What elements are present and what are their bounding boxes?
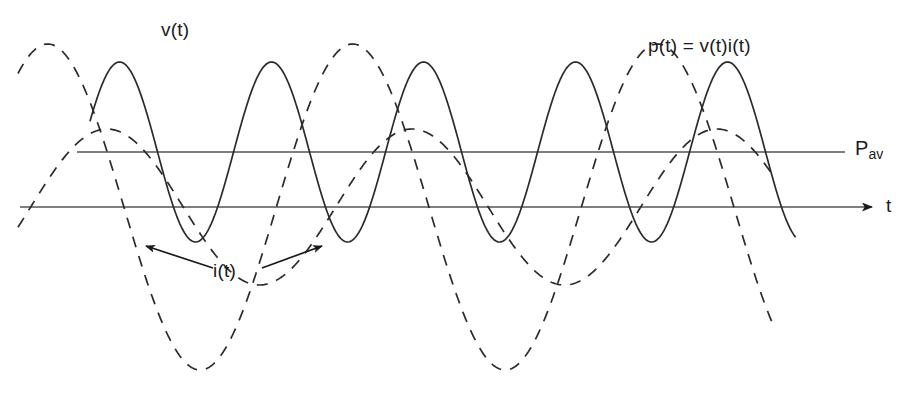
average-power-label-base: P bbox=[855, 137, 869, 159]
average-power-label: Pav bbox=[855, 138, 883, 158]
power-label: p(t) = v(t)i(t) bbox=[648, 36, 751, 55]
current-leader-arrow-left bbox=[146, 246, 213, 268]
current-leader-arrow-right bbox=[262, 246, 322, 268]
current-label: i(t) bbox=[213, 261, 236, 280]
time-axis-label: t bbox=[886, 196, 891, 215]
average-power-label-subscript: av bbox=[869, 146, 884, 162]
waveform-plot bbox=[0, 0, 912, 394]
power-waveform-figure: v(t) p(t) = v(t)i(t) i(t) t Pav bbox=[0, 0, 912, 394]
voltage-label: v(t) bbox=[161, 20, 189, 39]
